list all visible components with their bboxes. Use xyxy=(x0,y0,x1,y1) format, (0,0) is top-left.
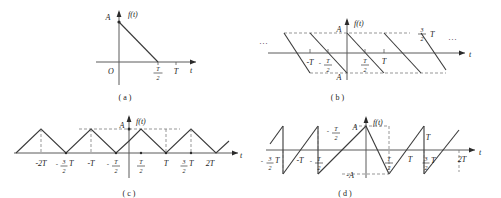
tick-label-neg-3t-half-den: 2 xyxy=(63,168,66,174)
x-axis-arrow xyxy=(190,60,196,65)
tick-label-3t-half-num: 3 xyxy=(182,159,186,165)
x-axis-arrow xyxy=(232,151,238,156)
y-axis-arrow xyxy=(127,115,132,122)
tick-label-neg-t-half-sign: - xyxy=(310,157,313,165)
tick-label-t: T xyxy=(382,57,387,66)
tick-label-t-half-den: 2 xyxy=(140,168,143,174)
panel-d-caption: ( d ) xyxy=(338,189,351,198)
tick-label-3t-half-num: 3 xyxy=(420,27,424,33)
x-axis-arrow xyxy=(469,148,475,153)
panel-a-plot: A f(t) t O T 2 T xyxy=(0,0,250,100)
tick-label-neg-t-half-num: T xyxy=(114,159,118,165)
tick-label-neg-3t-half-sign: - xyxy=(261,157,264,165)
tick-label-3t-half-num: 3 xyxy=(424,156,428,162)
tick-label-neg-3t-half-den: 2 xyxy=(269,165,272,171)
tick-label-t-upper: T xyxy=(426,133,431,142)
y-axis-label: f(t) xyxy=(136,117,146,126)
tick-label-3t-half-suffix: T xyxy=(430,30,435,39)
tick-label-neg-t: -T xyxy=(87,159,95,168)
tick-label-3t-half-suffix: T xyxy=(431,156,436,165)
tick-label-neg-t-half-den: 2 xyxy=(327,67,330,73)
tick-label-neg-t: -T xyxy=(306,58,314,67)
tick-label-t-half-den: 2 xyxy=(157,75,160,81)
tick-label-neg-3t-half-sign: - xyxy=(56,160,59,168)
amplitude-label: A xyxy=(336,25,342,34)
x-axis-label: t xyxy=(190,66,193,75)
tick-label-3t-half-den: 2 xyxy=(425,165,428,171)
marker-2t xyxy=(190,152,192,154)
marker-t xyxy=(165,152,167,154)
tick-label-3t-half-den: 2 xyxy=(421,36,424,42)
tick-label-neg-3t-half-suffix: T xyxy=(69,159,74,168)
x-axis-label: t xyxy=(240,151,243,160)
waveform-triangle xyxy=(16,129,229,153)
y-axis-label: f(t) xyxy=(373,118,383,127)
panel-b: A A f(t) t ... ... -T - T 2 T 2 T 3 2 T … xyxy=(250,0,501,100)
min-marker-t-half xyxy=(140,152,142,154)
tick-label-3t-half-suffix: T xyxy=(189,159,194,168)
panel-c: A f(t) t -2T - 3 2 T -T - T 2 T 2 T 3 2 … xyxy=(0,100,250,198)
panel-b-plot: A A f(t) t ... ... -T - T 2 T 2 T 3 2 T xyxy=(250,0,501,100)
ellipsis-right: ... xyxy=(449,33,458,42)
tick-label-t-half-den: 2 xyxy=(364,67,367,73)
tick-label-t: T xyxy=(408,155,413,164)
y-axis-arrow xyxy=(117,10,122,17)
tick-label-t-half-num: T xyxy=(363,58,367,64)
tick-label-neg-t-half-sign: - xyxy=(319,59,322,67)
y-axis-arrow xyxy=(364,116,369,123)
x-axis-arrow xyxy=(459,51,465,56)
peak-marker xyxy=(117,20,120,23)
tick-label-neg-t-half-upper-num: T xyxy=(334,126,338,132)
panel-a: A f(t) t O T 2 T ( a ) xyxy=(0,0,250,100)
tick-label-t: T xyxy=(174,67,179,76)
amplitude-label: A xyxy=(352,123,358,132)
y-axis-label: f(t) xyxy=(354,19,364,28)
tick-label-t-half-num: T xyxy=(387,156,391,162)
tick-label-2t: 2T xyxy=(458,155,467,164)
tick-label-2t: 2T xyxy=(206,159,215,168)
amplitude-label: A xyxy=(105,13,111,22)
tick-label-t-half-num: T xyxy=(139,159,143,165)
waveform-ramp xyxy=(119,22,158,62)
x-axis-label: t xyxy=(479,148,482,157)
origin-label: O xyxy=(108,67,114,76)
panel-d: A -A f(t) t - 3 2 T -T - T 2 - T 2 T 2 T… xyxy=(250,100,501,198)
tick-label-neg-t-half-sign: - xyxy=(107,160,110,168)
tick-label-neg-3t-half-suffix: T xyxy=(275,156,280,165)
tick-label-t: T xyxy=(164,159,169,168)
amplitude-label-negative: -A xyxy=(346,171,354,180)
tick-label-neg-t-half-num: T xyxy=(326,58,330,64)
tick-label-neg-t-half-den: 2 xyxy=(318,165,321,171)
y-axis-arrow xyxy=(345,18,350,25)
min-marker-neg-t-half xyxy=(115,152,117,154)
tick-label-neg-t-half-den: 2 xyxy=(115,168,118,174)
x-axis-label: t xyxy=(469,50,472,59)
min-marker-neg-3t-half xyxy=(65,152,67,154)
tick-label-neg-3t-half-num: 3 xyxy=(62,159,66,165)
tick-label-t-half-den: 2 xyxy=(388,165,391,171)
amplitude-label-negative: A xyxy=(336,73,342,82)
tick-label-neg-t-half-upper-sign: - xyxy=(327,127,330,135)
amplitude-label: A xyxy=(119,121,125,130)
tick-label-neg-t: -T xyxy=(296,156,304,165)
tick-label-neg-t-half-upper-den: 2 xyxy=(335,135,338,141)
y-axis-label: f(t) xyxy=(128,10,138,19)
tick-label-neg-2t: -2T xyxy=(35,159,47,168)
tick-label-t-half-num: T xyxy=(156,66,160,72)
tick-label-3t-half-den: 2 xyxy=(183,168,186,174)
ellipsis-left: ... xyxy=(260,37,269,46)
tick-label-neg-t-half-num: T xyxy=(317,156,321,162)
peak-marker-origin xyxy=(128,128,131,131)
panel-c-caption: ( c ) xyxy=(123,189,136,198)
tick-label-neg-3t-half-num: 3 xyxy=(268,156,272,162)
waveform-ramp-0 xyxy=(270,126,283,144)
